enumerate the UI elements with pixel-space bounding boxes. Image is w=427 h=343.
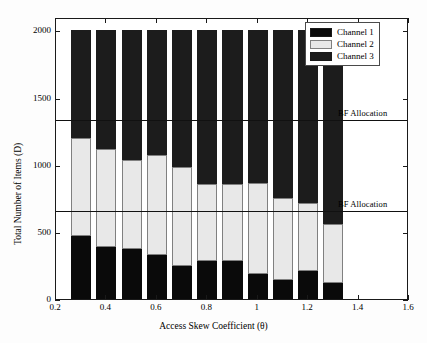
legend-item-channel-2: Channel 2 (310, 38, 374, 50)
bar-segment-channel-3 (147, 30, 167, 154)
y-tick-mark (55, 166, 60, 167)
bar-group (248, 18, 268, 299)
x-tick-label: 0.4 (90, 302, 120, 312)
bar-group (172, 18, 192, 299)
bar-segment-channel-1 (122, 249, 142, 299)
x-tick-mark-top (105, 18, 106, 23)
bar-segment-channel-3 (222, 30, 242, 183)
bar-segment-channel-1 (197, 261, 217, 299)
figure-canvas: 0500100015002000 0.20.40.60.811.21.41.6 … (0, 0, 427, 343)
bar-group (222, 18, 242, 299)
y-tick-label: 1500 (18, 93, 51, 103)
bar-segment-channel-1 (172, 266, 192, 299)
bar-group (147, 18, 167, 299)
bar-segment-channel-3 (172, 30, 192, 167)
chart-legend: Channel 1Channel 2Channel 3 (305, 22, 380, 66)
y-tick-mark (55, 31, 60, 32)
x-tick-label: 0.8 (191, 302, 221, 312)
bar-group (122, 18, 142, 299)
bar-segment-channel-2 (222, 184, 242, 261)
x-tick-mark (257, 295, 258, 300)
bar-segment-channel-2 (96, 149, 116, 246)
legend-label: Channel 3 (337, 51, 374, 61)
x-tick-label: 1.2 (292, 302, 322, 312)
x-tick-mark-top (408, 18, 409, 23)
legend-item-channel-3: Channel 3 (310, 50, 374, 62)
bar-group (273, 18, 293, 299)
legend-item-channel-1: Channel 1 (310, 26, 374, 38)
bar-segment-channel-3 (197, 30, 217, 183)
x-tick-mark (358, 295, 359, 300)
bar-segment-channel-3 (273, 30, 293, 198)
x-tick-mark (206, 295, 207, 300)
bar-segment-channel-1 (222, 261, 242, 299)
legend-label: Channel 1 (337, 27, 374, 37)
y-tick-mark-right (403, 166, 408, 167)
bar-segment-channel-2 (197, 184, 217, 261)
x-tick-mark (55, 295, 56, 300)
x-tick-mark (408, 295, 409, 300)
bar-segment-channel-3 (248, 30, 268, 182)
bar-segment-channel-1 (273, 280, 293, 299)
x-tick-label: 1.4 (343, 302, 373, 312)
bar-segment-channel-2 (147, 155, 167, 256)
bar-segment-channel-1 (147, 255, 167, 299)
bar-segment-channel-1 (96, 247, 116, 299)
legend-swatch-icon (310, 52, 332, 61)
x-tick-label: 1 (242, 302, 272, 312)
bar-segment-channel-3 (71, 30, 91, 137)
x-tick-mark-top (55, 18, 56, 23)
x-tick-label: 0.6 (141, 302, 171, 312)
bar-segment-channel-2 (172, 167, 192, 266)
bar-group (71, 18, 91, 299)
bar-segment-channel-2 (248, 183, 268, 274)
x-tick-label: 0.2 (40, 302, 70, 312)
x-tick-mark (156, 295, 157, 300)
bar-group (197, 18, 217, 299)
y-axis-title: Total Number of Items (D) (13, 143, 23, 245)
y-tick-label: 2000 (18, 25, 51, 35)
legend-label: Channel 2 (337, 39, 374, 49)
bf-allocation-label: BF Allocation (338, 108, 387, 118)
x-tick-mark-top (156, 18, 157, 23)
x-axis-title: Access Skew Coefficient (θ) (0, 321, 427, 331)
y-tick-mark-right (403, 300, 408, 301)
x-tick-mark (105, 295, 106, 300)
y-tick-mark (55, 99, 60, 100)
bar-segment-channel-3 (96, 30, 116, 149)
bar-segment-channel-1 (248, 274, 268, 299)
bar-segment-channel-1 (323, 283, 343, 299)
y-tick-mark (55, 233, 60, 234)
bar-group (96, 18, 116, 299)
bar-segment-channel-2 (298, 203, 318, 271)
x-tick-mark-top (206, 18, 207, 23)
y-tick-mark-right (403, 99, 408, 100)
legend-swatch-icon (310, 40, 332, 49)
x-tick-mark (307, 295, 308, 300)
bf-allocation-line (56, 211, 408, 212)
bar-segment-channel-2 (71, 138, 91, 236)
bf-allocation-label: BF Allocation (338, 199, 387, 209)
bar-segment-channel-2 (323, 224, 343, 282)
bar-segment-channel-3 (122, 30, 142, 160)
legend-swatch-icon (310, 28, 332, 37)
y-tick-mark-right (403, 31, 408, 32)
x-tick-mark-top (257, 18, 258, 23)
bar-segment-channel-2 (122, 160, 142, 249)
bar-segment-channel-1 (71, 236, 91, 299)
x-tick-label: 1.6 (393, 302, 423, 312)
y-tick-mark (55, 300, 60, 301)
bf-allocation-line (56, 120, 408, 121)
y-tick-mark-right (403, 233, 408, 234)
